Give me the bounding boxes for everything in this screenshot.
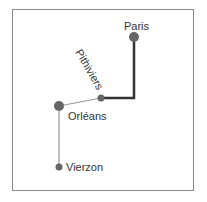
route-diagram: Paris Pithiviers Orléans Vierzon — [0, 0, 207, 202]
label-orleans: Orléans — [68, 110, 107, 122]
label-paris: Paris — [124, 20, 150, 32]
node-pithiviers — [98, 95, 105, 102]
node-vierzon — [56, 164, 63, 171]
edge-pithiviers-orleans — [59, 98, 101, 106]
node-orleans — [54, 101, 64, 111]
node-paris — [129, 32, 139, 42]
label-pithiviers: Pithiviers — [73, 47, 106, 92]
label-vierzon: Vierzon — [66, 161, 103, 173]
edge-paris-pithiviers — [101, 37, 134, 98]
